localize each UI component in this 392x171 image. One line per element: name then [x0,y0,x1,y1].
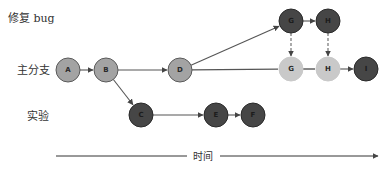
commit-label: A [65,66,71,74]
lane-labels: 修复 bug主分支实验 [8,11,55,123]
commit-label: C [138,111,143,119]
commit-label: D [177,66,183,74]
lane-label-main: 主分支 [17,64,50,77]
commit-node-I: I [354,57,378,81]
commit-label: G [288,65,294,73]
git-branch-diagram: 修复 bug主分支实验 ABDGHGHICEF 时间 [0,0,392,171]
commit-node-H2: H [316,57,340,81]
commit-label: I [365,65,368,73]
commit-label: F [251,111,256,119]
time-axis: 时间 [56,150,378,162]
commit-label: H [325,17,331,25]
commit-node-H1: H [316,9,340,33]
lane-label-experiment: 实验 [27,109,49,123]
commit-node-B: B [94,58,118,82]
edge-D-G2 [192,69,278,70]
lane-label-bugfix: 修复 bug [8,11,55,25]
commit-node-G2: G [279,57,303,81]
commit-nodes: ABDGHGHICEF [56,9,378,127]
commit-label: B [103,66,108,74]
commit-label: H [325,65,331,73]
edge-B-C [113,79,133,104]
commit-node-G1: G [279,9,303,33]
commit-node-F: F [241,103,265,127]
commit-node-D: D [168,58,192,82]
commit-label: E [214,111,219,119]
commit-node-E: E [204,103,228,127]
commit-node-C: C [129,103,153,127]
time-axis-label: 时间 [193,150,213,162]
commit-node-A: A [56,58,80,82]
commit-edges [80,21,353,115]
commit-label: G [288,17,294,25]
edge-D-G1 [191,26,279,65]
